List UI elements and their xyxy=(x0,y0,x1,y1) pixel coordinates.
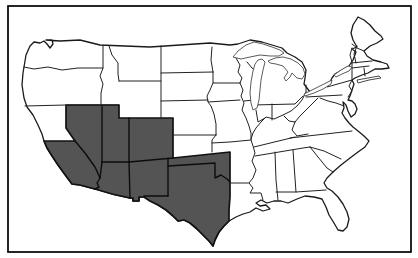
us-map-figure xyxy=(0,0,418,258)
long-island xyxy=(357,76,381,83)
shaded-state-border-7 xyxy=(129,162,130,198)
us-map xyxy=(0,0,418,258)
state-border-42 xyxy=(350,48,352,62)
